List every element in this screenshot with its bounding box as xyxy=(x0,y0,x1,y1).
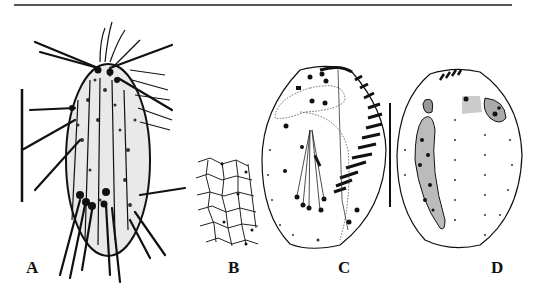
panel-label-c: C xyxy=(338,259,350,276)
panel-label-b: B xyxy=(228,259,239,276)
panel-b-drawing xyxy=(196,158,258,246)
panel-d-drawing xyxy=(397,69,522,247)
figure xyxy=(0,0,542,297)
panel-label-a: A xyxy=(26,259,38,276)
panel-a-drawing xyxy=(22,22,185,282)
panel-c-drawing xyxy=(262,66,386,248)
panel-label-d: D xyxy=(491,259,503,276)
figure-drawing xyxy=(0,0,542,297)
